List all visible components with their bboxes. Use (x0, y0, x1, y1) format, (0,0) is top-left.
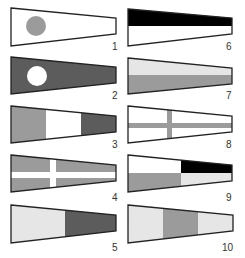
flags-diagram (0, 0, 245, 258)
flag-4 (0, 150, 130, 200)
flag-1 (0, 0, 130, 60)
flag-label-2: 2 (112, 91, 118, 101)
flag-label-9: 9 (226, 193, 232, 203)
flag-label-8: 8 (226, 140, 232, 150)
flag-label-6: 6 (226, 42, 232, 52)
flag-2 (0, 50, 130, 100)
flag-label-7: 7 (226, 91, 232, 101)
circle-icon (27, 66, 47, 86)
circle-icon (26, 16, 46, 36)
flag-label-1: 1 (112, 42, 118, 52)
flag-9 (120, 150, 245, 198)
flag-label-3: 3 (112, 140, 118, 150)
flag-label-10: 10 (222, 243, 233, 253)
flag-label-5: 5 (112, 243, 118, 253)
flag-label-4: 4 (112, 193, 118, 203)
flag-5 (0, 200, 130, 250)
